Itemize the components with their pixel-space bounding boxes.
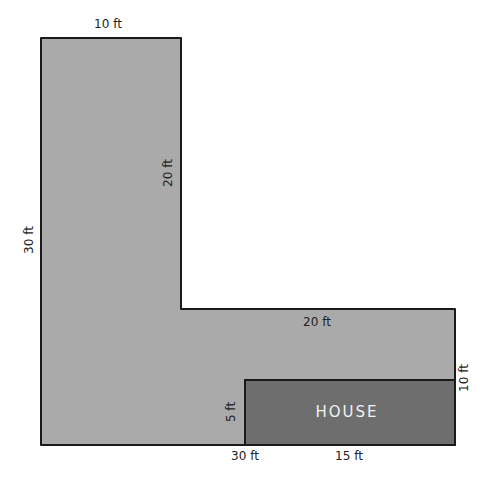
label-inner-vertical: 20 ft — [161, 159, 175, 187]
label-right-height: 10 ft — [457, 364, 471, 392]
label-bottom-left: 30 ft — [231, 449, 259, 463]
label-top-width: 10 ft — [94, 17, 122, 31]
label-left-height: 30 ft — [22, 226, 36, 254]
label-house-height: 5 ft — [224, 402, 238, 422]
house-label: HOUSE — [315, 403, 378, 421]
label-inner-horizontal: 20 ft — [303, 315, 331, 329]
label-house-width: 15 ft — [335, 449, 363, 463]
diagram-canvas: 10 ft 20 ft 30 ft 20 ft 10 ft 5 ft 30 ft… — [0, 0, 484, 481]
